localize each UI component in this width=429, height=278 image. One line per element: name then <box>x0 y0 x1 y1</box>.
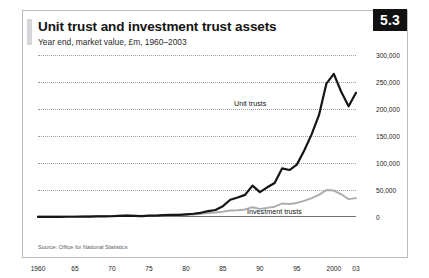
x-axis-tick-label: 65 <box>71 265 78 272</box>
series-label-investment-trusts: Investment trusts <box>247 207 302 216</box>
x-axis-tick-label: 90 <box>256 265 263 272</box>
x-axis-tick-label: 80 <box>182 265 189 272</box>
chart-subtitle: Year end, market value, £m, 1960–2003 <box>38 37 187 47</box>
source-note: Source: Office for National Statistics <box>38 244 127 250</box>
x-axis-tick-label: 85 <box>219 265 226 272</box>
x-axis-tick-label: 2000 <box>326 265 341 272</box>
page-title: Unit trust and investment trust assets <box>38 19 277 34</box>
line-unit-trusts <box>38 74 356 217</box>
y-axis-tick-label: 100,000 <box>376 160 400 167</box>
y-axis-tick-label: 200,000 <box>376 106 400 113</box>
x-axis-tick-label: 95 <box>293 265 300 272</box>
y-axis-tick-label: 50,000 <box>376 187 396 194</box>
plot-area: 050,000100,000150,000200,000250,000300,0… <box>38 55 356 217</box>
y-axis-tick-label: 150,000 <box>376 133 400 140</box>
x-axis-tick-label: 03 <box>352 265 359 272</box>
y-axis-tick-label: 0 <box>376 214 380 221</box>
y-axis-tick-label: 250,000 <box>376 79 400 86</box>
title-accent-bar <box>27 19 32 45</box>
series-label-unit-trusts: Unit trusts <box>234 99 266 108</box>
x-axis-tick-label: 1960 <box>31 265 46 272</box>
series-lines-group <box>38 55 356 217</box>
chart-number-badge: 5.3 <box>373 9 407 31</box>
chart-figure: 5.3 Unit trust and investment trust asse… <box>22 10 408 258</box>
x-axis-tick-label: 70 <box>108 265 115 272</box>
y-axis-tick-label: 300,000 <box>376 52 400 59</box>
x-axis-tick-label: 75 <box>145 265 152 272</box>
